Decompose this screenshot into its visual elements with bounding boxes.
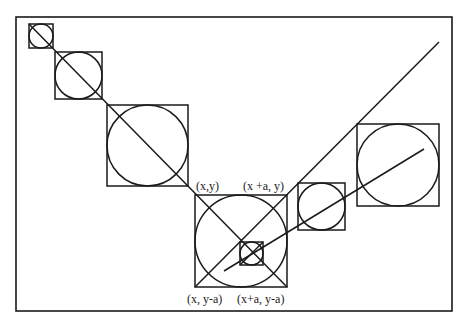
quadtree-diagram: (x,y) (x +a, y) (x, y-a) (x+a, y-a) <box>0 0 470 328</box>
label-bottom-left: (x, y-a) <box>187 292 222 306</box>
circle-s5 <box>298 183 345 230</box>
line-diag-shallow <box>224 149 424 271</box>
frame-border <box>16 17 452 311</box>
label-top-left: (x,y) <box>196 179 219 193</box>
label-bottom-right: (x+a, y-a) <box>237 292 284 306</box>
line-diag-main <box>29 24 287 287</box>
label-top-right: (x +a, y) <box>243 179 284 193</box>
line-diag-up <box>195 42 439 287</box>
